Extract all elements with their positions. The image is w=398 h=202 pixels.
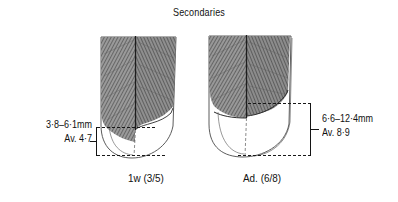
measure-line-juvenile-bottom xyxy=(97,155,165,156)
measurement-range-juvenile: 3·8–6·1mm xyxy=(13,118,92,132)
measure-line-juvenile-top xyxy=(97,127,155,128)
feather-illustration-juvenile xyxy=(94,30,188,160)
measurement-average-adult: Av. 8·9 xyxy=(322,126,390,140)
measure-line-adult-bottom xyxy=(238,155,311,156)
feather-left-svg xyxy=(94,30,188,160)
feather-measurement-figure: Secondaries xyxy=(0,0,398,202)
feather-illustration-adult xyxy=(200,30,304,160)
measure-line-adult-top xyxy=(248,103,311,104)
caption-juvenile: 1w (3/5) xyxy=(110,172,182,184)
feather-right-svg xyxy=(200,30,304,160)
measurement-label-juvenile: 3·8–6·1mm Av. 4·7 xyxy=(13,118,92,146)
caption-adult: Ad. (6/8) xyxy=(226,172,298,184)
measurement-average-juvenile: Av. 4·7 xyxy=(13,132,92,146)
measurement-label-adult: 6·6–12·4mm Av. 8·9 xyxy=(322,112,390,140)
measure-bracket-adult-tick xyxy=(311,129,319,130)
measurement-range-adult: 6·6–12·4mm xyxy=(322,112,390,126)
figure-title: Secondaries xyxy=(28,6,370,18)
